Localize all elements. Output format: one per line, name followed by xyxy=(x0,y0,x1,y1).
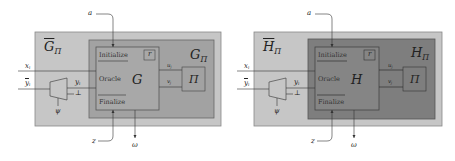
wire-a-label: a xyxy=(88,10,92,17)
section-finalize: Finalize xyxy=(318,99,344,106)
diagram-h: HΠ HΠ H Π r Initialize Oracle Finalize a… xyxy=(227,0,455,161)
randomness-label: r xyxy=(368,51,371,58)
adversary-label: Π xyxy=(189,74,199,85)
section-oracle: Oracle xyxy=(318,76,340,83)
bottom-symbol: ⊥ xyxy=(294,90,301,97)
section-finalize: Finalize xyxy=(99,99,125,106)
randomness-label: r xyxy=(148,51,151,58)
outer-label: HΠ xyxy=(263,40,281,56)
diagram-h-lines xyxy=(227,0,455,161)
wire-u-label: uj xyxy=(167,63,172,69)
diagram-g: GΠ GΠ G Π r Initialize Oracle Finalize a… xyxy=(0,0,228,161)
wire-omega-label: ω xyxy=(132,142,138,149)
wire-y-mid-label: yi xyxy=(294,79,299,87)
wire-z-label: z xyxy=(311,138,315,145)
wire-x-label: xi xyxy=(25,63,30,71)
game-label: H xyxy=(351,73,362,86)
wire-z-label: z xyxy=(92,138,96,145)
section-initialize: Initialize xyxy=(99,52,128,59)
wire-v-label: vj xyxy=(388,79,392,85)
wire-y-label: yi xyxy=(244,80,249,88)
section-oracle: Oracle xyxy=(99,76,121,83)
wire-v-label: vj xyxy=(167,79,171,85)
game-label: G xyxy=(132,73,142,86)
wire-a-label: a xyxy=(307,10,311,17)
psi-label: ψ xyxy=(55,108,61,115)
wire-omega-label: ω xyxy=(351,142,357,149)
wire-x-label: xi xyxy=(244,63,249,71)
wire-y-mid-label: yi xyxy=(75,79,80,87)
inner-label: GΠ xyxy=(190,48,207,64)
wire-u-label: uj xyxy=(388,63,393,69)
outer-label: GΠ xyxy=(44,40,61,56)
bottom-symbol: ⊥ xyxy=(75,90,82,97)
psi-label: ψ xyxy=(274,108,280,115)
wire-y-label: yi xyxy=(25,80,30,88)
inner-label: HΠ xyxy=(411,46,429,62)
adversary-label: Π xyxy=(410,74,420,85)
section-initialize: Initialize xyxy=(318,52,347,59)
